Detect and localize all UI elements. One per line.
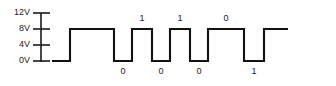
- timing-diagram-svg: 12V 8V 4V 0V 1 1 0 0 0 0 1: [0, 0, 336, 86]
- bit-label-below-3: 0: [196, 66, 201, 76]
- waveform-trace: [52, 29, 288, 61]
- waveform-figure: 12V 8V 4V 0V 1 1 0 0 0 0 1 Copyright © 2…: [0, 0, 336, 86]
- axis-label-0v: 0V: [19, 55, 30, 65]
- axis-label-8v: 8V: [19, 23, 30, 33]
- bit-labels-below: 0 0 0 1: [120, 66, 256, 76]
- bit-label-above-2: 1: [177, 13, 182, 23]
- bit-labels-above: 1 1 0: [139, 13, 228, 23]
- bit-label-above-3: 0: [223, 13, 228, 23]
- bit-label-below-2: 0: [158, 66, 163, 76]
- bit-label-above-1: 1: [139, 13, 144, 23]
- bit-label-below-1: 0: [120, 66, 125, 76]
- bit-label-below-4: 1: [251, 66, 256, 76]
- axis-label-12v: 12V: [14, 7, 30, 17]
- voltage-axis: 12V 8V 4V 0V: [14, 7, 50, 65]
- axis-label-4v: 4V: [19, 39, 30, 49]
